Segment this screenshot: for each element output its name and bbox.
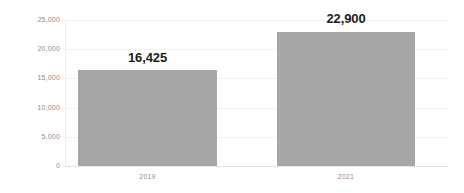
bar-2021[interactable] <box>277 32 415 166</box>
y-axis-tick-label-15000: 15,000 <box>0 74 60 82</box>
y-axis-tick-label-10000: 10,000 <box>0 104 60 112</box>
y-axis-tick-label-20000: 20,000 <box>0 45 60 53</box>
value-label-2021: 22,900 <box>277 12 415 26</box>
bar-chart: 25,000 20,000 15,000 10,000 5,000 0 16,4… <box>0 0 464 193</box>
x-axis-category-label-2019: 2019 <box>78 172 217 181</box>
gridline-baseline-0 <box>65 166 448 167</box>
y-axis-tick-label-5000: 5,000 <box>0 133 60 141</box>
y-axis-tick-label-0: 0 <box>0 162 60 170</box>
plot-area <box>65 20 448 166</box>
value-label-2019: 16,425 <box>78 51 217 65</box>
y-axis-tick-label-25000: 25,000 <box>0 16 60 24</box>
x-axis-category-label-2021: 2021 <box>277 172 415 181</box>
bar-2019[interactable] <box>78 70 217 166</box>
